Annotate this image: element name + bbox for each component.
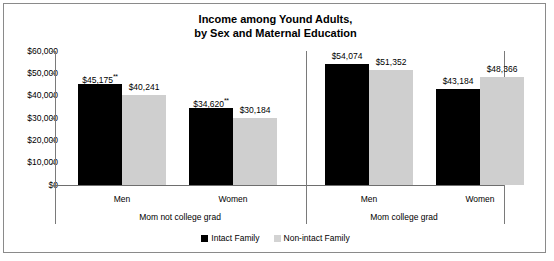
bar-non-intact-family	[122, 95, 166, 185]
bar-intact-family	[189, 108, 233, 185]
significance-marker: **	[113, 73, 118, 80]
y-axis-tick-label: $0	[4, 181, 58, 190]
bar-value-label: $30,184	[240, 106, 271, 115]
bar-intact-family	[78, 84, 122, 185]
bar-value-label: $43,184	[443, 77, 474, 86]
group-separator-line	[306, 51, 307, 224]
x-axis-category-label: Men	[329, 195, 409, 204]
y-axis-tick-label: $50,000	[4, 69, 58, 78]
legend-item: Intact Family	[201, 233, 259, 243]
legend-label: Non-intact Family	[284, 233, 350, 243]
y-axis-tick-label: $10,000	[4, 158, 58, 167]
x-axis-category-label: Women	[440, 195, 520, 204]
bar-value-label: $51,352	[376, 58, 407, 67]
legend-swatch-icon	[274, 235, 281, 242]
y-axis-tick-label: $30,000	[4, 114, 58, 123]
x-axis-group-label: Mom college grad	[324, 213, 484, 222]
y-axis-tick-label: $40,000	[4, 91, 58, 100]
bar-value-label: $48,366	[487, 65, 518, 74]
bar-non-intact-family	[233, 118, 277, 185]
x-axis-category-label: Women	[193, 195, 273, 204]
bar-non-intact-family	[369, 70, 413, 185]
bar-intact-family	[325, 64, 369, 185]
chart-frame: Income among Yound Adults, by Sex and Ma…	[3, 3, 546, 253]
y-axis-tick-label: $60,000	[4, 47, 58, 56]
bar-value-label: $40,241	[129, 83, 160, 92]
bar-intact-family	[436, 89, 480, 185]
plot-area: $60,000$50,000$40,000$30,000$20,000$10,0…	[4, 4, 547, 254]
bar-value-label: $45,175**	[82, 72, 117, 85]
y-axis-tick-label: $20,000	[4, 136, 58, 145]
x-axis-group-label: Mom not college grad	[100, 213, 260, 222]
legend-item: Non-intact Family	[274, 233, 350, 243]
x-axis-line	[55, 185, 504, 186]
bar-value-label: $34,620**	[193, 96, 228, 109]
bar-value-label: $54,074	[332, 52, 363, 61]
y-axis-line	[55, 51, 56, 224]
legend-label: Intact Family	[211, 233, 259, 243]
x-axis-category-label: Men	[82, 195, 162, 204]
chart-legend: Intact FamilyNon-intact Family	[4, 233, 547, 243]
bar-non-intact-family	[480, 77, 524, 185]
legend-swatch-icon	[201, 235, 208, 242]
significance-marker: **	[224, 97, 229, 104]
